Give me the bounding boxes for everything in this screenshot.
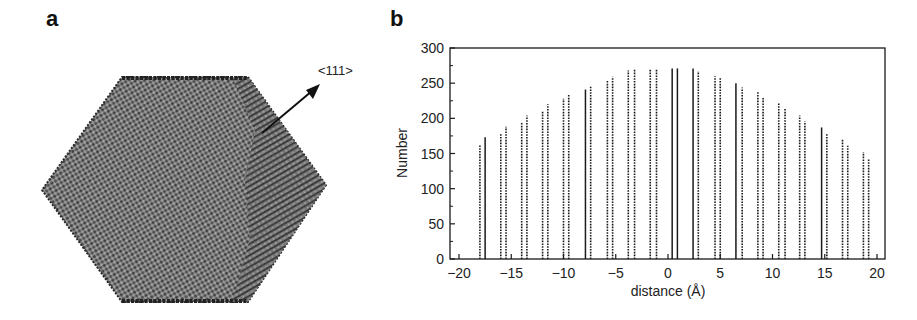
- y-tick-label: 200: [421, 110, 445, 126]
- x-tick-label: 20: [869, 265, 885, 281]
- y-tick-label: 150: [421, 146, 445, 162]
- nanoparticle-model: <111>: [42, 63, 353, 302]
- x-tick-label: 15: [817, 265, 833, 281]
- figure-canvas: <111> 050100150200250300 −20−15−10−50510…: [0, 0, 917, 320]
- x-tick-label: −20: [447, 265, 471, 281]
- x-tick-label: −15: [499, 265, 523, 281]
- y-axis-title: Number: [394, 128, 410, 178]
- bar-series: [480, 68, 869, 259]
- plot-frame: [450, 48, 885, 259]
- x-axis-title: distance (Å): [631, 283, 706, 299]
- x-tick-label: −10: [552, 265, 576, 281]
- x-tick-label: 10: [765, 265, 781, 281]
- y-tick-label: 100: [421, 181, 445, 197]
- x-tick-label: 0: [664, 265, 672, 281]
- y-tick-label: 50: [428, 216, 444, 232]
- x-tick-label: −5: [608, 265, 624, 281]
- x-tick-label: 5: [716, 265, 724, 281]
- direction-label: <111>: [318, 63, 353, 78]
- histogram-plot: 050100150200250300 −20−15−10−505101520 d…: [394, 40, 885, 299]
- y-tick-label: 250: [421, 75, 445, 91]
- arrow-head-icon: [306, 84, 320, 99]
- y-tick-label: 300: [421, 40, 445, 56]
- y-tick-label: 0: [436, 251, 444, 267]
- x-axis: −20−15−10−505101520: [447, 254, 885, 281]
